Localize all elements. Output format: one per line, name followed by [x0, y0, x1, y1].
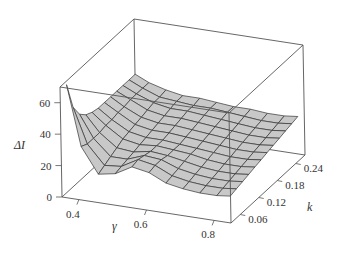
y-axis-title: k: [307, 200, 313, 214]
z-tick-label: 0: [47, 191, 53, 203]
y-tick: [277, 181, 282, 182]
box-edge-top-right: [229, 45, 303, 113]
box-edge-top-back: [134, 19, 303, 45]
y-tick-label: 0.12: [267, 196, 286, 208]
y-tick-label: 0.06: [248, 213, 268, 225]
box-edge-back-right-vertical: [303, 45, 305, 155]
y-tick-label: 0.24: [304, 162, 324, 174]
surface-plot: 02040600.40.60.80.060.120.180.24 ΔI γ k: [0, 0, 340, 253]
z-tick-label: 40: [40, 128, 52, 140]
y-tick: [296, 164, 301, 165]
y-tick-label: 0.18: [285, 179, 305, 191]
x-tick: [145, 210, 147, 215]
surface-mesh: [67, 74, 298, 196]
x-tick-label: 0.6: [134, 218, 148, 230]
x-tick: [212, 220, 214, 225]
z-axis-title: ΔI: [13, 138, 26, 152]
x-axis-title: γ: [112, 219, 117, 233]
z-tick-label: 60: [39, 97, 51, 109]
box-edge-front-left-vertical: [60, 87, 62, 197]
x-tick-label: 0.8: [201, 228, 215, 240]
z-tick-label: 20: [40, 160, 52, 172]
y-tick: [240, 215, 245, 216]
x-tick: [77, 200, 79, 205]
box-edge-top-left: [60, 19, 134, 87]
x-tick-label: 0.4: [66, 208, 80, 220]
y-tick: [259, 198, 264, 199]
